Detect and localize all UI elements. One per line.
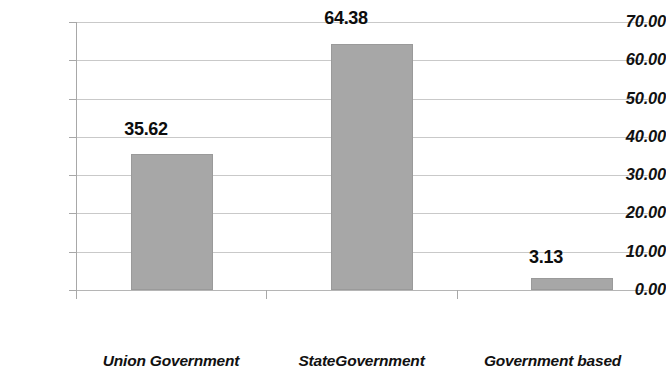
y-tick-20 xyxy=(69,213,77,214)
x-axis-label-line-1: Government based xyxy=(457,348,648,373)
y-axis-label-60: 60.00 xyxy=(598,50,666,69)
y-axis-label-30: 30.00 xyxy=(598,165,666,184)
y-axis-label-40: 40.00 xyxy=(598,127,666,146)
bar-value-label-voluntary-health-insurance: 3.13 xyxy=(491,247,601,268)
y-tick-70 xyxy=(69,22,77,23)
bar-value-label-state-government: 64.38 xyxy=(291,8,401,29)
x-axis-label-line-1: Union Government xyxy=(76,348,266,373)
gridline-0-baseline xyxy=(76,290,648,291)
x-axis-label-union-government: Union Government Health Expenditure (% o… xyxy=(76,298,266,379)
bar-union-government-health-expenditure xyxy=(131,154,213,290)
bar-chart: 70.00 60.00 50.00 40.00 30.00 20.00 10.0… xyxy=(0,0,666,379)
y-tick-40 xyxy=(69,137,77,138)
y-axis-line xyxy=(76,22,77,291)
x-axis-label-voluntary-health-insurance: Government based Voluntary Health Insura… xyxy=(457,298,648,379)
y-tick-50 xyxy=(69,99,77,100)
y-tick-30 xyxy=(69,175,77,176)
y-axis-label-70: 70.00 xyxy=(598,12,666,31)
bar-value-label-union-government: 35.62 xyxy=(91,119,201,140)
y-axis-label-0: 0.00 xyxy=(598,280,666,299)
y-axis-label-10: 10.00 xyxy=(598,242,666,261)
x-axis-label-line-1: StateGovernment xyxy=(266,348,457,373)
x-axis-label-state-government: StateGovernment Health Expenditure (% of… xyxy=(266,298,457,379)
y-axis-label-20: 20.00 xyxy=(598,203,666,222)
bar-state-government-health-expenditure xyxy=(331,44,413,291)
y-axis-label-50: 50.00 xyxy=(598,89,666,108)
y-tick-60 xyxy=(69,60,77,61)
y-tick-10 xyxy=(69,252,77,253)
